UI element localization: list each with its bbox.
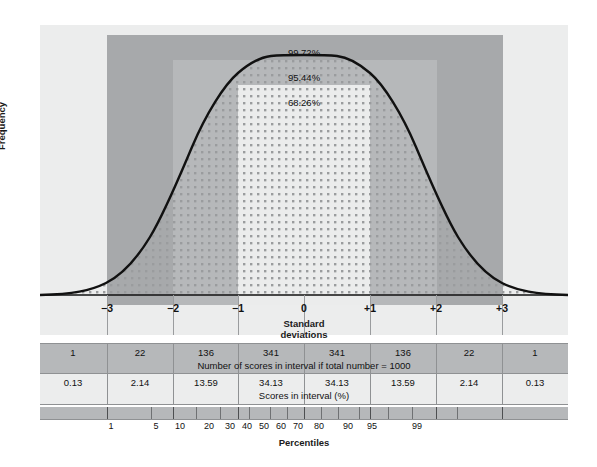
percentile-tick [370, 407, 371, 419]
count-cell: 1 [504, 347, 566, 358]
sd-tick-label-plus3: +3 [482, 302, 522, 314]
percent-cell: 0.13 [504, 377, 566, 388]
count-cell: 341 [306, 347, 368, 358]
x-axis-title: Standard deviations [40, 318, 568, 340]
y-axis-title: Frequency [0, 102, 7, 150]
curve-fill-stipple [40, 25, 568, 295]
percent-cell: 34.13 [240, 377, 302, 388]
percent-caption: Scores in interval (%) [40, 390, 568, 401]
percent-cell: 0.13 [42, 377, 104, 388]
sd-tick-label-plus2: +2 [416, 302, 456, 314]
percentile-tick [359, 407, 360, 419]
plot-panel: 99.72% 95.44% 68.26% [40, 25, 568, 335]
percentile-tick [412, 407, 413, 419]
count-cell: 22 [109, 347, 171, 358]
sd-tick-label-plus1: +1 [350, 302, 390, 314]
count-cell: 22 [438, 347, 500, 358]
percentile-tick [457, 407, 458, 419]
percentile-tick [304, 407, 305, 419]
table-row-percent: 0.13 2.14 13.59 34.13 34.13 13.59 2.14 0… [40, 374, 568, 405]
count-cell: 136 [372, 347, 434, 358]
sd-tick-label-minus2: −2 [153, 302, 193, 314]
x-axis-title-line2: deviations [40, 329, 568, 340]
sd-tick-label-zero: 0 [284, 302, 324, 314]
percentile-tick [321, 407, 322, 419]
band-label-9972: 99.72% [244, 47, 364, 58]
sd-tick-label-minus3: −3 [87, 302, 127, 314]
percent-cell: 2.14 [438, 377, 500, 388]
x-axis-title-line1: Standard [40, 318, 568, 329]
percentile-tick [238, 407, 239, 419]
percentile-tick [107, 407, 108, 419]
percentile-tick [388, 407, 389, 419]
percent-cell: 13.59 [175, 377, 237, 388]
percent-cell: 13.59 [372, 377, 434, 388]
percentile-scale [40, 407, 568, 420]
percentile-tick [502, 407, 503, 419]
percentile-tick [338, 407, 339, 419]
count-cell: 341 [240, 347, 302, 358]
sd-tick-label-minus1: −1 [218, 302, 258, 314]
percentile-tick [270, 407, 271, 419]
percent-cell: 34.13 [306, 377, 368, 388]
counts-caption: Number of scores in interval if total nu… [40, 360, 568, 371]
count-cell: 1 [42, 347, 104, 358]
percentile-label: 99 [397, 421, 437, 431]
percent-cell: 2.14 [109, 377, 171, 388]
count-cell: 136 [175, 347, 237, 358]
percentile-label: 1 [91, 421, 131, 431]
normal-distribution-figure: Frequency [0, 0, 597, 467]
percentile-tick [196, 407, 197, 419]
percentile-tick [436, 407, 437, 419]
percentile-label: 95 [352, 421, 392, 431]
interval-table: 1 22 136 341 341 136 22 1 Number of scor… [40, 343, 568, 405]
band-label-9544: 95.44% [244, 72, 364, 83]
percentile-tick [151, 407, 152, 419]
percentile-tick [173, 407, 174, 419]
percentile-tick [249, 407, 250, 419]
percentile-tick [220, 407, 221, 419]
band-label-6826: 68.26% [244, 97, 364, 108]
percentile-tick [287, 407, 288, 419]
percentile-axis-title: Percentiles [40, 437, 568, 448]
table-row-counts: 1 22 136 341 341 136 22 1 Number of scor… [40, 343, 568, 374]
